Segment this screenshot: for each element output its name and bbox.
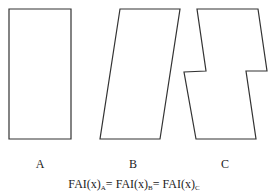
label-c: C: [221, 157, 229, 172]
formula-sub-c: C: [195, 184, 200, 192]
formula: FAI(x)A= FAI(x)B= FAI(x)C: [68, 177, 199, 192]
formula-term-a: FAI(x): [68, 177, 100, 191]
shape-a-rectangle: [9, 9, 71, 139]
shape-b-parallelogram: [100, 9, 180, 139]
formula-term-c: = FAI(x): [153, 177, 195, 191]
formula-term-b: = FAI(x): [106, 177, 148, 191]
label-b: B: [129, 157, 137, 172]
label-a: A: [36, 157, 45, 172]
shape-c-notched-shape: [184, 9, 267, 139]
